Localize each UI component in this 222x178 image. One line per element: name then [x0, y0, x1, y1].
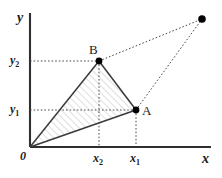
y-axis-label: y [17, 11, 23, 25]
origin-label: 0 [20, 150, 26, 162]
guide-a-to-sum [136, 19, 202, 110]
x-axis-label: x [202, 152, 209, 166]
point-marker-sum [198, 15, 206, 23]
x1-tick-subscript: 1 [136, 158, 140, 167]
guide-b-to-sum [99, 19, 202, 61]
diagram-canvas [0, 0, 222, 178]
point-marker-a [133, 107, 140, 114]
shaded-triangle-region [30, 61, 136, 147]
x2-tick-subscript: 2 [99, 158, 103, 167]
point-b-label: B [89, 43, 98, 56]
x1-tick-label: x1 [130, 152, 140, 164]
figure-container: y x 0 y2 y1 x2 x1 A B [0, 0, 222, 178]
y1-tick-subscript: 1 [15, 109, 19, 118]
point-marker-b [96, 58, 103, 65]
point-a-label: A [142, 104, 151, 117]
y2-tick-subscript: 2 [15, 60, 19, 69]
x2-tick-label: x2 [93, 152, 103, 164]
y2-tick-label: y2 [10, 54, 19, 66]
y1-tick-label: y1 [10, 103, 19, 115]
